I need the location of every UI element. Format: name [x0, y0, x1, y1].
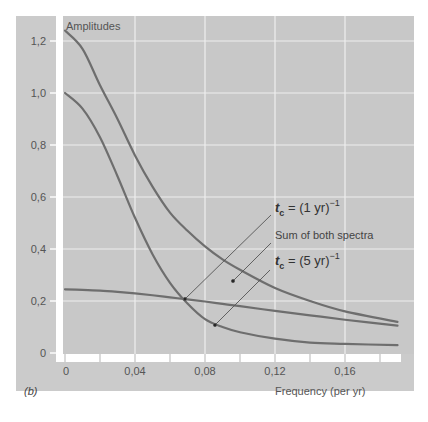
- x-tick-label: 0: [63, 365, 69, 377]
- panel-label: (b): [24, 385, 38, 397]
- x-tick-label: 0,12: [264, 365, 285, 377]
- x-axis-strip: [56, 354, 401, 362]
- y-tick-label: 0,6: [31, 191, 46, 203]
- amplitude-spectrum-chart: tc = (1 yr)−1 Sum of both spectra tc = (…: [0, 0, 428, 422]
- leader-dot-1yr: [183, 297, 186, 300]
- leader-dot-5yr: [213, 323, 216, 326]
- y-axis-strip: [56, 16, 63, 361]
- y-tick-label: 0,8: [31, 139, 46, 151]
- plot-area: [63, 16, 414, 354]
- x-tick-label: 0,04: [124, 365, 145, 377]
- y-tick-label: 0,4: [31, 243, 46, 255]
- leader-dot-sum: [231, 279, 234, 282]
- y-tick-label: 0,2: [31, 295, 46, 307]
- x-tick-label: 0,08: [194, 365, 215, 377]
- y-tick-label: 1,0: [31, 87, 46, 99]
- y-axis-title: Amplitudes: [66, 20, 121, 32]
- x-axis-title: Frequency (per yr): [275, 385, 365, 397]
- y-tick-label: 0: [40, 347, 46, 359]
- x-tick-label: 0,16: [334, 365, 355, 377]
- annotation-sum: Sum of both spectra: [275, 229, 374, 241]
- y-tick-label: 1,2: [31, 35, 46, 47]
